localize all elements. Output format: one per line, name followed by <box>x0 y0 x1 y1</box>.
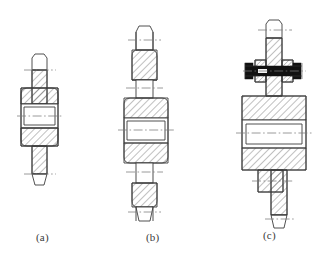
view-c-hub-upper <box>242 96 306 120</box>
view-a-hub-lower <box>21 128 58 146</box>
view-b-hub-lower <box>124 143 168 163</box>
view-c <box>236 20 312 228</box>
caption-b: (b) <box>146 231 159 243</box>
view-b-upper-neck <box>136 80 153 98</box>
view-c-bore <box>242 120 306 148</box>
caption-a: (a) <box>36 231 49 243</box>
drawing-sheet: (a) (b) (c) <box>0 0 314 268</box>
view-a-lower-shaft-section <box>32 146 47 174</box>
view-b <box>118 26 174 221</box>
view-a <box>17 54 62 185</box>
view-b-lower-shaft-section <box>132 183 157 207</box>
view-c-hub-lower <box>242 148 306 170</box>
caption-c: (c) <box>263 229 276 241</box>
technical-drawing-canvas <box>0 0 314 268</box>
view-a-lower-shaft-tip <box>32 174 47 185</box>
view-c-bottom-stub <box>271 215 287 228</box>
view-b-bore <box>124 118 168 143</box>
view-c-lower-shaft-section <box>271 170 287 215</box>
view-b-top-stub <box>136 26 153 50</box>
view-a-hub-upper <box>21 88 58 104</box>
view-b-bottom-stub <box>136 207 153 221</box>
view-b-hub-upper <box>124 98 168 118</box>
view-c-top-stub <box>266 20 282 38</box>
view-a-upper-shaft <box>32 54 47 70</box>
view-b-lower-neck <box>136 163 153 183</box>
